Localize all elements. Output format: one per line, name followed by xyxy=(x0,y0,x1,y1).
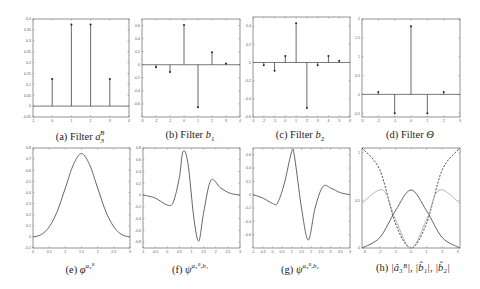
y-tick-label: 0.5 xyxy=(26,180,31,184)
stem-plot-d: -3-2-10123-0.500.511.52 xyxy=(330,0,460,145)
y-tick-label: -0.6 xyxy=(245,115,251,119)
x-tick-label: -3 xyxy=(140,119,143,123)
x-tick-label: 2 xyxy=(306,119,308,123)
x-tick-label: -3 xyxy=(363,250,366,254)
y-tick-label: 0 xyxy=(358,93,360,97)
x-tick-label: 3 xyxy=(317,119,319,123)
y-tick-label: 0.05 xyxy=(24,94,31,98)
y-tick-label: -0.5 xyxy=(354,112,360,116)
curve-light xyxy=(362,190,460,248)
y-tick-label: -0.05 xyxy=(23,115,31,119)
curve-solid xyxy=(362,190,460,248)
y-tick-label: -0.2 xyxy=(245,79,251,83)
y-tick-label: 0.35 xyxy=(24,28,31,32)
stem-marker xyxy=(51,78,53,80)
y-tick-label: 0 xyxy=(29,235,31,239)
y-tick-label: 0.6 xyxy=(26,169,31,173)
x-tick-label: 1 xyxy=(70,119,72,123)
stem-marker xyxy=(295,22,297,24)
y-tick-label: -0.4 xyxy=(134,89,140,93)
y-tick-label: 0.4 xyxy=(26,17,31,21)
stem-marker xyxy=(211,51,213,53)
caption-f: (f) ψa₃ᴮ,b₁ xyxy=(140,262,240,275)
y-tick-label: 1 xyxy=(358,151,360,155)
x-tick-label: 2 xyxy=(97,250,99,254)
x-tick-label: 2 xyxy=(441,250,443,254)
y-tick-label: -0.4 xyxy=(135,217,141,221)
stem-marker xyxy=(306,107,308,109)
stem-marker xyxy=(169,71,171,73)
y-tick-label: -0.1 xyxy=(25,246,31,250)
x-tick-label: 3 xyxy=(457,250,459,254)
stem-marker xyxy=(274,70,276,72)
x-tick-label: 3 xyxy=(459,119,461,123)
y-tick-label: -0.4 xyxy=(245,97,251,101)
x-tick-label: 2 xyxy=(310,250,312,254)
stem-marker xyxy=(183,24,185,26)
stem-marker xyxy=(90,23,92,25)
y-tick-label: 0 xyxy=(138,63,140,67)
y-tick-label: 0.2 xyxy=(135,50,140,54)
y-tick-label: 0.6 xyxy=(136,158,141,162)
x-tick-label: -1 xyxy=(168,119,171,123)
x-tick-label: 1 xyxy=(191,250,193,254)
y-tick-label: 0.15 xyxy=(24,72,31,76)
x-tick-label: -1 xyxy=(273,119,276,123)
y-tick-label: 0.3 xyxy=(26,39,31,43)
y-tick-label: 2 xyxy=(358,17,360,21)
y-tick-label: 0.1 xyxy=(26,83,31,87)
y-tick-label: 0.4 xyxy=(26,191,31,195)
x-tick-label: 0.5 xyxy=(177,250,182,254)
y-tick-label: -0.4 xyxy=(245,220,251,224)
y-tick-label: 0 xyxy=(358,246,360,250)
stem-marker xyxy=(443,91,445,93)
stem-marker xyxy=(155,66,157,68)
caption-b: (b) Filter b1 xyxy=(140,129,240,143)
x-tick-label: -1 xyxy=(251,250,254,254)
caption-e: (e) φa₃ᴮ xyxy=(30,262,130,275)
axes-frame xyxy=(362,148,460,248)
x-tick-label: 0 xyxy=(284,119,286,123)
y-tick-label: 0 xyxy=(139,193,141,197)
y-tick-label: -0.6 xyxy=(135,229,141,233)
stem-marker xyxy=(263,64,265,66)
curve-dashed xyxy=(362,148,460,248)
x-tick-label: -3 xyxy=(251,119,254,123)
y-tick-label: -0.8 xyxy=(135,240,141,244)
x-tick-label: 1 xyxy=(295,119,297,123)
y-tick-label: 0.7 xyxy=(26,157,31,161)
y-tick-label: 0 xyxy=(249,61,251,65)
x-tick-label: -0.5 xyxy=(260,250,266,254)
x-tick-label: 1.5 xyxy=(299,250,304,254)
x-tick-label: 0 xyxy=(183,119,185,123)
y-tick-label: 0.6 xyxy=(135,24,140,28)
x-tick-label: 0.5 xyxy=(280,250,285,254)
x-tick-label: 0 xyxy=(271,250,273,254)
x-tick-label: 0 xyxy=(166,250,168,254)
y-tick-label: 0.5 xyxy=(355,74,360,78)
stem-marker xyxy=(317,64,319,66)
x-tick-label: 1 xyxy=(426,119,428,123)
x-tick-label: 1.5 xyxy=(79,250,84,254)
x-tick-label: -2 xyxy=(154,119,157,123)
subplot-d: -3-2-10123-0.500.511.52 xyxy=(330,0,460,145)
x-tick-label: -2 xyxy=(378,250,381,254)
x-tick-label: -2 xyxy=(262,119,265,123)
x-tick-label: -1 xyxy=(394,250,397,254)
y-tick-label: 0.25 xyxy=(24,50,31,54)
y-tick-label: -0.6 xyxy=(134,102,140,106)
x-tick-label: 1 xyxy=(291,250,293,254)
y-tick-label: 0.4 xyxy=(246,24,251,28)
y-tick-label: 1 xyxy=(358,55,360,59)
stem-marker xyxy=(410,25,412,27)
x-tick-label: 2.5 xyxy=(318,250,323,254)
y-tick-label: 0.2 xyxy=(26,213,31,217)
y-tick-label: 0.2 xyxy=(246,43,251,47)
y-tick-label: -0.2 xyxy=(134,76,140,80)
y-tick-label: 0.4 xyxy=(246,166,251,170)
x-tick-label: 0 xyxy=(32,250,34,254)
y-tick-label: 0.8 xyxy=(136,146,141,150)
subplot-a: -101234-0.0500.050.10.150.20.250.30.350.… xyxy=(0,0,120,145)
y-tick-label: 0.2 xyxy=(26,61,31,65)
caption-h: (h) |â₃ᴮ|, |b̂₁|, |b̂₂| xyxy=(358,262,468,273)
